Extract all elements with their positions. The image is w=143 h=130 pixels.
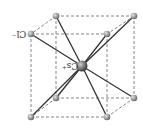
cation-label: Cs⁺ (62, 61, 79, 71)
cl-atom (104, 31, 111, 38)
cscl-diagram: Cl⁻ Cs⁺ (0, 0, 143, 130)
cl-atom (53, 95, 60, 102)
anion-label: Cl⁻ (11, 29, 26, 39)
cl-atom (53, 13, 60, 20)
cl-atom (28, 31, 35, 38)
cl-atom (104, 114, 111, 121)
cl-atom (28, 114, 35, 121)
crystal-structure-svg: Cl⁻ Cs⁺ (0, 0, 143, 130)
cl-atom (131, 13, 138, 20)
cl-atom (131, 95, 138, 102)
